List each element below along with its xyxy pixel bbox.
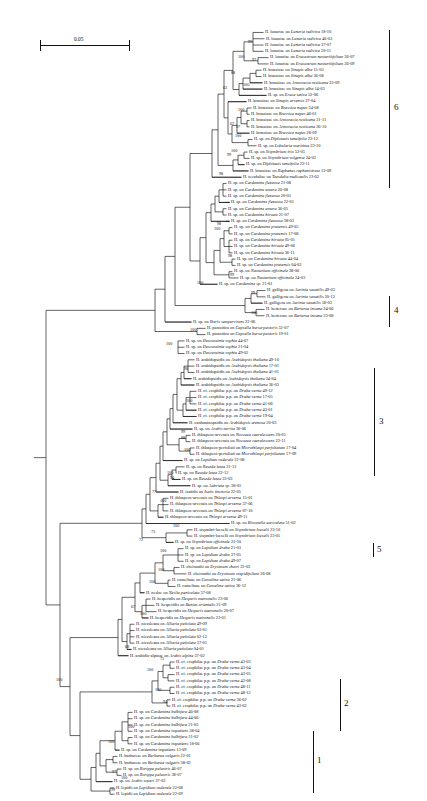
bootstrap-support-value: 99 [181,430,185,434]
taxon-label: H. sp. on Arabis soyeri 37-03 [114,779,165,783]
taxon-label: H. sp. on Cardamine bulbifera 46-08 [134,710,198,714]
taxon-label: H. brassicae on Sinapis arvensis 27-04 [248,99,315,103]
bootstrap-support-value: 100 [243,83,249,87]
bootstrap-support-value: 97 [112,770,116,774]
taxon-label: H. sp. on Diplotaxis tenuifolia 23-11 [246,162,310,166]
taxon-label: H. sp. on Cardamine bulbifera 21-05 [134,723,198,727]
clade-label-4: 4 [394,306,399,315]
taxon-label: H. camelinae on Camelina sativa 21-06 [172,578,241,582]
bootstrap-support-value: 100 [149,580,155,584]
bootstrap-support-value: 100 [197,281,203,285]
bootstrap-support-value: 100 [166,342,172,346]
taxon-label: H. sp. on Cardamine hirsuta 49-06 [234,244,295,248]
bootstrap-support-value: 63 [223,86,227,90]
taxon-label: H. sp. on Cardamine pratensis 17-08 [234,232,298,236]
taxon-label: H. cf. erophilae p.p. on Draba verna 43-… [176,666,251,670]
taxon-label: H. teesdaliae on Teesdalia nudicaulis 23… [243,175,319,179]
bootstrap-support-value: 100 [167,471,173,475]
taxon-label: H. sp. on Sisymbrium irio 52-05 [249,150,305,154]
taxon-label: H. thlaspeos-perfoliati on Microthlaspi … [196,446,296,450]
taxon-label: H. arabidopsidis on Arabidopsis thaliana… [196,358,279,362]
taxon-label: H. sp. on Arabis turrita 36-06 [194,427,246,431]
bootstrap-support-value: 100 [238,108,244,112]
taxon-label: H. sp. on Rorippa palustris 46-07 [123,767,182,771]
clade-label-1: 1 [317,756,322,765]
bootstrap-support-value: 100 [158,568,164,572]
taxon-label: H. sp. on Cardamine flexuosa 38-03 [231,219,294,223]
taxon-label: H. brassicae on Armoracia rusticana 23-0… [264,81,339,85]
taxon-label: H. cf. erophilae p.p. on Draba verna 43-… [172,704,247,708]
taxon-label: H. brassicae on Brassica napus 46-01 [251,112,317,116]
bootstrap-support-value: 99 [230,273,234,277]
bootstrap-support-value: 67 [230,122,234,126]
taxon-label: H. cf. erophilae p.p. on Draba verna 49-… [198,389,273,393]
bootstrap-support-value: 94 [163,700,167,704]
taxon-label: H. arabidopsidis on Arabidopsis thaliana… [196,370,279,374]
taxon-label: H. sp. on Cardamine hirsuta 21-07 [228,213,289,217]
taxon-label: H. lepidii on Lepidium ruderale 22-09 [116,792,183,796]
taxon-label: H. brassicae on Sinapis alba 36-08 [263,74,324,78]
bootstrap-support-value: 100 [56,678,62,682]
taxon-label: H. sp. on Cardamine flexuosa 22-01 [231,200,294,204]
taxon-label: H. sp. on Lepidium draba 37-05 [185,553,241,557]
taxon-label: H. thlaspeos-arvensis on Noccaea caerule… [192,433,286,437]
taxon-label: H. parasitica on Capsella bursa-pastoris… [207,332,289,336]
taxon-label: H. sp. on Descurainia sophia 49-02 [186,351,248,355]
taxon-label: H. arabidopsidis on Arabidopsis thaliana… [196,364,279,368]
taxon-label: H. hesperidis on Hesperis matronalis 23-… [152,597,228,601]
bootstrap-support-value: 100 [214,227,220,231]
taxon-label: H. sp. on Cardamine amara 20-08 [228,188,288,192]
bootstrap-support-value: 100 [128,725,134,729]
taxon-label: H. brassicae on Brassica napus 24-08 [253,106,319,110]
bootstrap-support-value: 99 [111,788,115,792]
taxon-label: H. niessleana on Alliaria petiolata 03-0… [136,628,207,632]
taxon-label: H. cf. erophilae p.p. on Draba verna 19-… [198,414,273,418]
taxon-label: H. sp. on Descurainia sophia 44-07 [186,339,248,343]
bootstrap-support-value: 100 [160,499,166,503]
bootstrap-support-value: 100 [251,311,257,315]
taxon-label: H. sp. on Diplotaxis tenuifolia 23-12 [254,137,318,141]
taxon-label: H. barbareae on Barbarea vulgaris 38-02 [119,761,191,765]
taxon-label: H. brassicae on Sinapis alba 15-03 [263,68,324,72]
bootstrap-support-value: 94 [170,476,174,480]
taxon-label: H. sp. on Cardamine impatiens 38-04 [134,729,199,733]
bootstrap-support-value: 100 [186,399,192,403]
clade-label-6: 6 [394,103,399,112]
clade-label-5: 5 [377,545,382,554]
taxon-label: H. thlaspeos-arvensis on Noccaea caerule… [192,439,285,443]
taxon-label: H. hesperidis on Hesperis matronalis 23-… [150,616,226,620]
taxon-label: H. parasitica on Capsella bursa-pastoris… [207,326,289,330]
taxon-label: H. thlaspeos-arvensis on Thlaspi arvense… [170,509,253,513]
taxon-label: H. sp. on Cardamine hirsuta 36-11 [234,251,295,255]
taxon-label: H. sp. on Descurainia sophia 21-04 [186,345,248,349]
taxon-label: H. cf. erophilae p.p. on Draba verna 36-… [172,698,247,702]
bootstrap-support-value: 98 [217,222,221,226]
bootstrap-support-value: 99 [227,153,231,157]
bootstrap-support-value: 68 [125,645,129,649]
taxon-label: H. lunariae on Lunaria rediviva 37-07 [265,43,331,47]
taxon-label: H. brassicae on Armoracia rusticana 26-1… [251,125,326,129]
taxon-label: H. niessleana on Alliaria petiolata 37-0… [136,641,207,645]
taxon-label: H. berteroae on Berteroa incana 24-06 [266,307,333,311]
taxon-label: H. niessleana on Alliaria petiolata 02-1… [136,635,207,639]
taxon-label: H. brassicae on Armoracia rusticana 21-1… [251,118,326,122]
taxon-label: H. sp. on Lepidium draba 21-03 [185,546,241,550]
taxon-label: H. cardaminopsidis on Arabidopsis arenos… [189,421,276,425]
taxon-label: H. cf. erophilae p.p. on Draba verna 48-… [176,685,251,689]
taxon-label: H. cf. erophilae p.p. on Draba verna 42-… [176,679,251,683]
bootstrap-support-value: 75 [160,657,164,661]
taxon-label: H. sp. on Lepidium draba 49-07 [185,559,241,563]
bootstrap-support-value: 88 [181,436,185,440]
bootstrap-support-value: 100 [231,149,237,153]
taxon-label: H. sp. on Cardamine hirsuta 05-01 [234,238,295,242]
bootstrap-support-value: 99 [248,40,252,44]
taxon-label: H. sp. on Cardamine amara 36-05 [228,207,288,211]
taxon-label: H. lepidii on Lepidium ruderale 22-08 [116,786,183,790]
taxon-label: H. sp. on Reseda lutea 21-12 [186,465,236,469]
bootstrap-support-value: 72 [139,538,143,542]
taxon-label: H. lunariae on Erucastrum nasturtiifoliu… [270,62,354,66]
taxon-label: H. thlaspeos-arvensis on Thlaspi arvense… [165,515,247,519]
bootstrap-support-value: 77 [152,490,156,494]
bootstrap-support-value: 100 [140,612,146,616]
taxon-label: H. arabidopsidis on Arabidopsis thaliana… [196,383,279,387]
